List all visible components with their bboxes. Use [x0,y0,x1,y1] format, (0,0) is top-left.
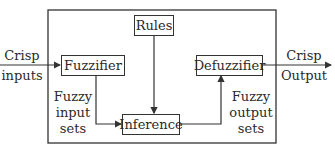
rules-block: Rules [134,15,174,36]
fuzzy-input-sets-line3: sets [52,120,94,137]
crisp-output-label-line1: Crisp [279,47,329,64]
inference-to-defuzzifier-arrow [179,76,221,124]
defuzzifier-block: Defuzzifier [196,55,263,76]
inference-block: Inference [122,114,180,135]
fuzzy-input-sets-line2: input [52,104,94,121]
fuzzifier-block: Fuzzifier [61,55,125,76]
fuzzy-output-sets-line1: Fuzzy [228,88,274,105]
crisp-input-label-line1: Crisp [0,47,44,64]
fuzzy-input-sets-line1: Fuzzy [52,88,94,105]
crisp-input-label-line2: inputs [0,67,44,84]
crisp-output-label-line2: Output [279,67,329,84]
fuzzy-output-sets-line2: output [228,104,274,121]
fuzzy-output-sets-line3: sets [228,120,274,137]
fuzzifier-to-inference-arrow [96,75,121,124]
